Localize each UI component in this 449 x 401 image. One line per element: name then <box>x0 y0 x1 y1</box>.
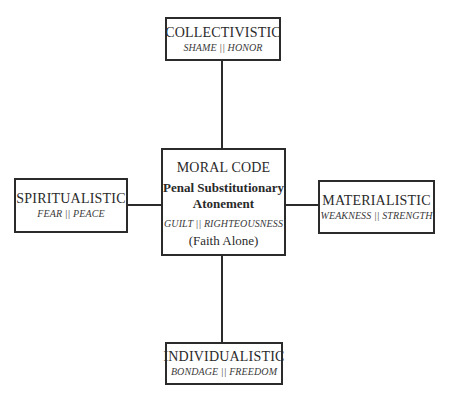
connector-bottom <box>221 255 223 343</box>
connector-top <box>221 60 223 149</box>
approach-line-1: Penal Substitutionary <box>163 180 284 196</box>
materialistic-title: MATERIALISTIC <box>322 193 430 209</box>
spiritualistic-title: SPIRITUALISTIC <box>16 191 125 207</box>
moral-code-note: (Faith Alone) <box>189 233 259 249</box>
individualistic-subtitle: BONDAGE || FREEDOM <box>171 365 277 378</box>
collectivistic-box: COLLECTIVISTIC SHAME || HONOR <box>165 17 281 61</box>
collectivistic-subtitle: SHAME || HONOR <box>183 41 262 54</box>
connector-left <box>127 204 162 206</box>
moral-code-subtitle: GUILT || RIGHTEOUSNESS <box>164 217 283 230</box>
spiritualistic-box: SPIRITUALISTIC FEAR || PEACE <box>14 178 128 233</box>
materialistic-box: MATERIALISTIC WEAKNESS || STRENGTH <box>318 180 435 234</box>
connector-right <box>285 204 319 206</box>
collectivistic-title: COLLECTIVISTIC <box>165 25 281 41</box>
individualistic-title: INDIVIDUALISTIC <box>163 349 284 365</box>
spiritualistic-subtitle: FEAR || PEACE <box>37 207 104 220</box>
materialistic-subtitle: WEAKNESS || STRENGTH <box>321 209 433 222</box>
moral-code-box: MORAL CODE Penal Substitutionary Atoneme… <box>161 148 286 256</box>
individualistic-box: INDIVIDUALISTIC BONDAGE || FREEDOM <box>165 342 283 385</box>
moral-code-title: MORAL CODE <box>177 160 271 176</box>
approach-line-2: Atonement <box>193 196 254 212</box>
